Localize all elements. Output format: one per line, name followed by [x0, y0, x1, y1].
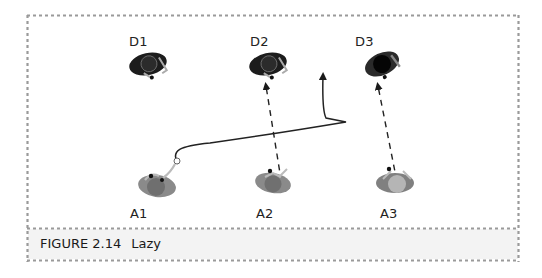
attacker-a3-label: A3 — [380, 206, 398, 221]
defender-d3-label: D3 — [355, 34, 374, 49]
defender-d1-label: D1 — [129, 34, 148, 49]
defender-d2-label: D2 — [250, 34, 269, 49]
attacker-a3-icon — [376, 167, 414, 193]
a1-run-path — [175, 76, 346, 164]
figure-title: Lazy — [131, 236, 161, 251]
defender-d1-icon — [127, 49, 170, 83]
attacker-a1-label: A1 — [130, 206, 148, 221]
attacker-a1-icon — [137, 158, 180, 200]
figure-caption: FIGURE 2.14Lazy — [40, 236, 161, 251]
defender-d3-icon — [361, 46, 405, 85]
attacker-a2-label: A2 — [256, 206, 274, 221]
attacker-a2-icon — [254, 169, 293, 196]
defender-d2-icon — [247, 49, 290, 83]
diagram-figure: D1 D2 D3 A1 A2 A3 FIGURE 2.14Lazy — [0, 0, 542, 278]
outer-dotted-border — [27, 15, 519, 262]
figure-number: FIGURE 2.14 — [40, 236, 121, 251]
